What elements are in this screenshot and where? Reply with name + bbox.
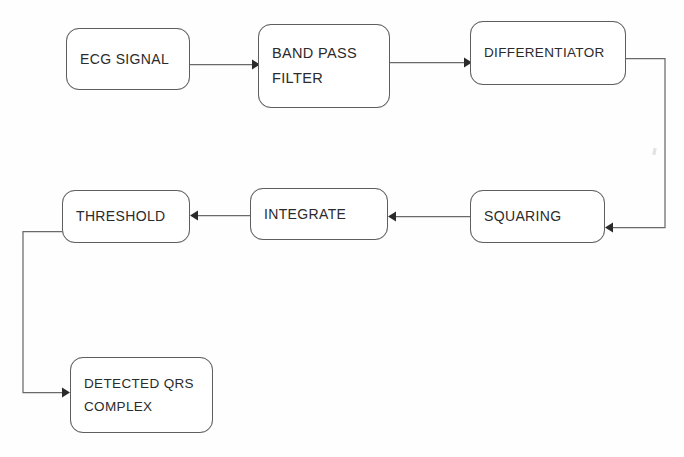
block-differentiator[interactable]: DIFFERENTIATOR <box>470 21 626 85</box>
block-ecg-signal[interactable]: ECG SIGNAL <box>66 28 190 90</box>
block-squaring-label: SQUARING <box>484 205 591 228</box>
block-integrate[interactable]: INTEGRATE <box>250 188 388 240</box>
block-squaring[interactable]: SQUARING <box>470 190 605 243</box>
block-detected-qrs-complex[interactable]: DETECTED QRS COMPLEX <box>70 357 213 433</box>
edge-threshold-to-detected-qrs <box>23 232 70 398</box>
block-integrate-label: INTEGRATE <box>264 203 374 226</box>
block-band-pass-filter-label-line1: BAND PASS <box>272 42 376 65</box>
block-ecg-signal-label: ECG SIGNAL <box>80 48 176 71</box>
edge-squaring-to-integrate <box>388 212 470 222</box>
block-detected-qrs-complex-label-line1: DETECTED QRS <box>84 373 199 395</box>
block-detected-qrs-complex-label-line2: COMPLEX <box>84 396 199 418</box>
edge-ecg-to-bandpass <box>190 60 260 70</box>
edge-integrate-to-threshold <box>190 211 250 221</box>
block-band-pass-filter-label-line2: FILTER <box>272 67 376 90</box>
block-threshold-label: THRESHOLD <box>76 205 176 228</box>
block-band-pass-filter[interactable]: BAND PASS FILTER <box>258 24 390 108</box>
block-diagram-canvas: ECG SIGNAL BAND PASS FILTER DIFFERENTIAT… <box>0 0 684 457</box>
block-differentiator-label: DIFFERENTIATOR <box>484 42 612 64</box>
block-threshold[interactable]: THRESHOLD <box>62 190 190 243</box>
edge-bandpass-to-differentiator <box>390 58 472 68</box>
